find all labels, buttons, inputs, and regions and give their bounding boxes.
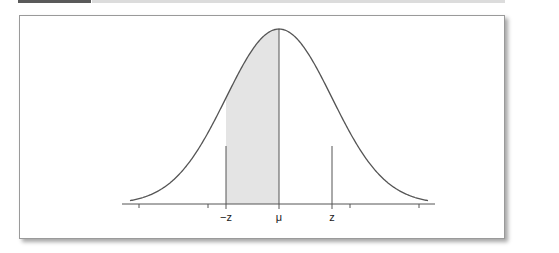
axis-ticks [139,204,419,209]
label-neg-z: −z [220,211,232,223]
label-z: z [329,211,335,223]
shaded-area [226,29,279,204]
normal-curve-figure: −z μ z [0,0,559,253]
label-mu: μ [276,211,282,223]
